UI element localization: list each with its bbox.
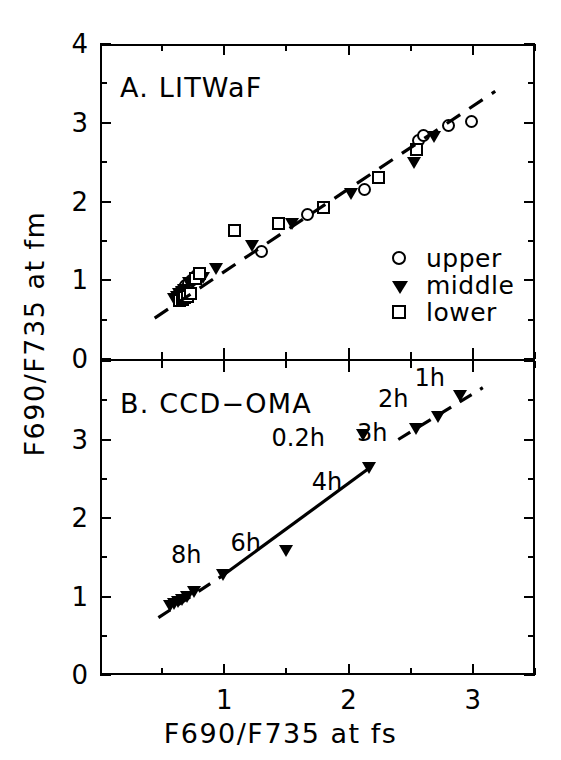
data-point-b-middle-8 <box>362 462 376 474</box>
y-tick-label-b-3: 3 <box>48 427 88 453</box>
x-tick-div-up-3 <box>472 348 474 359</box>
panel-a-title: A. LITWaF <box>120 72 263 103</box>
data-point-a-middle-9 <box>285 218 299 230</box>
y-tick-panel-a-3.5 <box>100 82 107 84</box>
y-tick-label-a-1: 1 <box>48 267 88 293</box>
data-point-b-middle-11 <box>431 411 445 423</box>
y-tick-panel-b-4 <box>100 360 111 362</box>
x-tick-top-2.5 <box>410 44 412 51</box>
y-tick-panel-a-2 <box>100 201 111 203</box>
x-tick-bottom-1.5 <box>285 668 287 675</box>
point-annotation-1h: 1h <box>414 366 444 390</box>
square-icon <box>392 305 406 319</box>
x-tick-bottom-2 <box>348 664 350 675</box>
y-tick-label-b-0: 0 <box>48 662 88 688</box>
y-tick-panel-b-2.5 <box>100 478 107 480</box>
y-tick-right-panel-b-2.5 <box>528 478 535 480</box>
y-axis-title: F690/F735 at fm <box>19 34 50 634</box>
data-point-a-middle-12 <box>427 131 441 143</box>
y-tick-panel-b-3 <box>100 439 111 441</box>
data-point-a-lower-9 <box>317 201 330 214</box>
y-tick-panel-b-1 <box>100 596 111 598</box>
y-tick-label-a-3: 3 <box>48 110 88 136</box>
y-tick-right-panel-a-3.5 <box>528 82 535 84</box>
x-tick-label-1: 1 <box>204 687 244 713</box>
point-annotation-6h: 6h <box>230 531 260 555</box>
y-tick-right-panel-b-2 <box>524 517 535 519</box>
y-tick-label-b-2: 2 <box>48 505 88 531</box>
y-tick-panel-b-0 <box>100 674 111 676</box>
data-point-a-upper-13 <box>465 115 478 128</box>
y-tick-right-panel-a-2 <box>524 201 535 203</box>
y-tick-panel-a-2.5 <box>100 161 107 163</box>
data-point-a-lower-10 <box>372 171 385 184</box>
x-tick-div-dn-2.5 <box>410 361 412 368</box>
x-tick-top-1.5 <box>285 44 287 51</box>
x-tick-div-up-0.5 <box>161 352 163 359</box>
x-tick-div-dn-1.5 <box>285 361 287 368</box>
y-tick-panel-b-0.5 <box>100 635 107 637</box>
data-point-b-middle-10 <box>409 423 423 435</box>
x-tick-div-up-1.5 <box>285 352 287 359</box>
y-tick-panel-a-1 <box>100 279 111 281</box>
data-point-a-lower-4 <box>184 287 197 300</box>
x-tick-bottom-2.5 <box>410 668 412 675</box>
x-tick-div-dn-2 <box>348 361 350 372</box>
data-point-a-lower-8 <box>272 217 285 230</box>
x-tick-top-0.5 <box>161 44 163 51</box>
y-tick-right-panel-a-0.5 <box>528 319 535 321</box>
y-tick-right-panel-b-0.5 <box>528 635 535 637</box>
data-point-a-lower-7 <box>228 224 241 237</box>
point-annotation-0-2h: 0.2h <box>271 426 324 450</box>
data-point-b-middle-5 <box>187 586 201 598</box>
point-annotation-4h: 4h <box>312 470 342 494</box>
data-point-a-middle-10 <box>344 188 358 200</box>
y-tick-panel-a-0.5 <box>100 319 107 321</box>
data-point-a-upper-8 <box>301 208 314 221</box>
x-tick-div-dn-0.5 <box>161 361 163 368</box>
x-tick-div-up-1 <box>223 348 225 359</box>
y-tick-panel-b-2 <box>100 517 111 519</box>
x-tick-div-dn-3.5 <box>534 361 536 368</box>
x-axis-title: F690/F735 at fs <box>0 718 561 749</box>
x-tick-top-3 <box>472 44 474 55</box>
x-tick-top-3.5 <box>534 44 536 51</box>
x-tick-div-dn-3 <box>472 361 474 372</box>
legend-label-lower: lower <box>426 300 497 326</box>
y-tick-right-panel-b-3 <box>524 439 535 441</box>
data-point-a-lower-6 <box>193 267 206 280</box>
y-tick-panel-b-3.5 <box>100 399 107 401</box>
point-annotation-8h: 8h <box>171 543 201 567</box>
point-annotation-2h: 2h <box>378 387 408 411</box>
y-tick-label-a-0: 0 <box>48 346 88 372</box>
data-point-a-lower-11 <box>410 143 423 156</box>
y-tick-right-panel-a-1.5 <box>528 240 535 242</box>
data-point-a-middle-8 <box>245 240 259 252</box>
x-tick-div-up-2 <box>348 348 350 359</box>
x-tick-bottom-3 <box>472 664 474 675</box>
x-tick-label-3: 3 <box>453 687 493 713</box>
triangle-icon <box>392 281 408 294</box>
y-tick-panel-a-4 <box>100 43 111 45</box>
x-tick-bottom-0.5 <box>161 668 163 675</box>
y-tick-label-a-4: 4 <box>48 31 88 57</box>
figure-scatter-plots: F690/F735 at fm F690/F735 at fs A. LITWa… <box>0 0 561 760</box>
x-tick-top-1 <box>223 44 225 55</box>
legend-label-upper: upper <box>426 246 502 272</box>
point-annotation-3h: 3h <box>357 421 387 445</box>
x-tick-top-2 <box>348 44 350 55</box>
data-point-b-middle-7 <box>279 545 293 557</box>
data-point-a-middle-7 <box>209 263 223 275</box>
y-tick-right-panel-a-2.5 <box>528 161 535 163</box>
x-tick-div-up-3.5 <box>534 352 536 359</box>
data-point-a-upper-12 <box>442 119 455 132</box>
x-tick-div-up-2.5 <box>410 352 412 359</box>
y-tick-right-panel-a-1 <box>524 279 535 281</box>
panel-b-title: B. CCD−OMA <box>120 388 312 419</box>
x-tick-label-2: 2 <box>329 687 369 713</box>
y-tick-label-a-2: 2 <box>48 189 88 215</box>
x-tick-bottom-1 <box>223 664 225 675</box>
circle-icon <box>392 251 406 265</box>
y-tick-panel-b-1.5 <box>100 556 107 558</box>
data-point-b-middle-6 <box>216 569 230 581</box>
